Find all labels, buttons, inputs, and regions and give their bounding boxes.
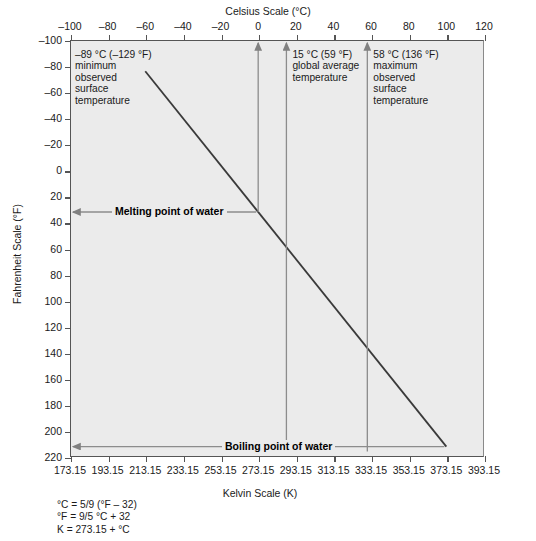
fahrenheit-tick bbox=[65, 406, 71, 407]
celsius-tick-label: –20 bbox=[212, 20, 230, 32]
kelvin-tick bbox=[109, 456, 110, 462]
fahrenheit-tick bbox=[65, 171, 71, 172]
kelvin-tick-label: 233.15 bbox=[167, 464, 199, 476]
kelvin-tick bbox=[372, 456, 373, 462]
fahrenheit-tick-label: –20 bbox=[20, 138, 62, 150]
annotation-minimum-temperature: –89 °C (–129 °F) minimum observed surfac… bbox=[75, 49, 152, 106]
celsius-tick-label: 60 bbox=[365, 20, 377, 32]
fahrenheit-tick-label: 120 bbox=[20, 321, 62, 333]
fahrenheit-tick bbox=[65, 197, 71, 198]
annotation-average-temperature: 15 °C (59 °F) global average temperature bbox=[292, 49, 359, 83]
kelvin-tick bbox=[485, 456, 486, 462]
fahrenheit-tick-label: 80 bbox=[20, 269, 62, 281]
celsius-tick bbox=[334, 35, 335, 41]
fahrenheit-tick bbox=[65, 380, 71, 381]
kelvin-tick bbox=[259, 456, 260, 462]
fahrenheit-tick bbox=[65, 250, 71, 251]
celsius-axis-title: Celsius Scale (°C) bbox=[0, 5, 536, 17]
celsius-tick-label: 120 bbox=[475, 20, 493, 32]
celsius-tick bbox=[447, 35, 448, 41]
fahrenheit-tick-label: –80 bbox=[20, 60, 62, 72]
fahrenheit-tick bbox=[65, 354, 71, 355]
fahrenheit-tick-label: 220 bbox=[20, 451, 62, 463]
kelvin-tick-label: 313.15 bbox=[317, 464, 349, 476]
fahrenheit-tick-label: 200 bbox=[20, 425, 62, 437]
fahrenheit-tick bbox=[65, 145, 71, 146]
melting-point-label: Melting point of water bbox=[112, 205, 227, 217]
kelvin-tick-label: 273.15 bbox=[242, 464, 274, 476]
celsius-tick bbox=[372, 35, 373, 41]
fahrenheit-tick bbox=[65, 302, 71, 303]
kelvin-tick-label: 393.15 bbox=[468, 464, 500, 476]
kelvin-tick-label: 173.15 bbox=[54, 464, 86, 476]
celsius-tick-label: 20 bbox=[290, 20, 302, 32]
celsius-tick bbox=[259, 35, 260, 41]
celsius-tick-label: 100 bbox=[438, 20, 456, 32]
fahrenheit-tick bbox=[65, 328, 71, 329]
celsius-tick bbox=[410, 35, 411, 41]
kelvin-tick bbox=[222, 456, 223, 462]
fahrenheit-tick-label: 0 bbox=[20, 164, 62, 176]
fahrenheit-tick bbox=[65, 223, 71, 224]
kelvin-tick-label: 213.15 bbox=[129, 464, 161, 476]
fahrenheit-tick bbox=[65, 67, 71, 68]
kelvin-tick bbox=[71, 456, 72, 462]
celsius-tick-label: –40 bbox=[174, 20, 192, 32]
conversion-formulas: °C = 5/9 (°F – 32) °F = 9/5 °C + 32 K = … bbox=[57, 499, 137, 536]
celsius-tick-label: –80 bbox=[99, 20, 117, 32]
celsius-tick bbox=[146, 35, 147, 41]
fahrenheit-tick-label: 40 bbox=[20, 216, 62, 228]
kelvin-tick-label: 333.15 bbox=[355, 464, 387, 476]
kelvin-tick-label: 373.15 bbox=[430, 464, 462, 476]
fahrenheit-tick-label: 20 bbox=[20, 190, 62, 202]
kelvin-tick bbox=[334, 456, 335, 462]
fahrenheit-tick-label: 160 bbox=[20, 373, 62, 385]
fahrenheit-tick-label: 180 bbox=[20, 399, 62, 411]
celsius-tick bbox=[297, 35, 298, 41]
celsius-tick-label: 40 bbox=[328, 20, 340, 32]
annotation-maximum-temperature: 58 °C (136 °F) maximum observed surface … bbox=[373, 49, 438, 106]
kelvin-axis-title: Kelvin Scale (K) bbox=[36, 487, 484, 499]
celsius-tick-label: 0 bbox=[255, 20, 261, 32]
fahrenheit-tick-label: –60 bbox=[20, 86, 62, 98]
fahrenheit-tick bbox=[65, 119, 71, 120]
celsius-tick bbox=[71, 35, 72, 41]
kelvin-tick bbox=[146, 456, 147, 462]
celsius-tick bbox=[222, 35, 223, 41]
celsius-tick-label: –100 bbox=[58, 20, 81, 32]
temperature-scale-chart: Celsius Scale (°C) Kelvin Scale (K) Fahr… bbox=[0, 0, 536, 541]
fahrenheit-tick-label: 60 bbox=[20, 243, 62, 255]
celsius-tick-label: 80 bbox=[403, 20, 415, 32]
fahrenheit-tick bbox=[65, 432, 71, 433]
fahrenheit-tick-label: 140 bbox=[20, 347, 62, 359]
kelvin-tick bbox=[184, 456, 185, 462]
fahrenheit-tick bbox=[65, 276, 71, 277]
celsius-tick bbox=[109, 35, 110, 41]
fahrenheit-tick bbox=[65, 458, 71, 459]
fahrenheit-tick-label: –40 bbox=[20, 112, 62, 124]
kelvin-tick-label: 193.15 bbox=[92, 464, 124, 476]
fahrenheit-tick bbox=[65, 41, 71, 42]
kelvin-tick-label: 253.15 bbox=[204, 464, 236, 476]
kelvin-tick bbox=[410, 456, 411, 462]
kelvin-tick-label: 353.15 bbox=[393, 464, 425, 476]
fahrenheit-tick-label: 100 bbox=[20, 295, 62, 307]
fahrenheit-tick-label: –100 bbox=[20, 34, 62, 46]
celsius-tick-label: –60 bbox=[137, 20, 155, 32]
kelvin-tick bbox=[447, 456, 448, 462]
kelvin-tick bbox=[297, 456, 298, 462]
fahrenheit-tick bbox=[65, 93, 71, 94]
celsius-tick bbox=[184, 35, 185, 41]
kelvin-tick-label: 293.15 bbox=[280, 464, 312, 476]
boiling-point-label: Boiling point of water bbox=[222, 440, 335, 452]
celsius-tick bbox=[485, 35, 486, 41]
